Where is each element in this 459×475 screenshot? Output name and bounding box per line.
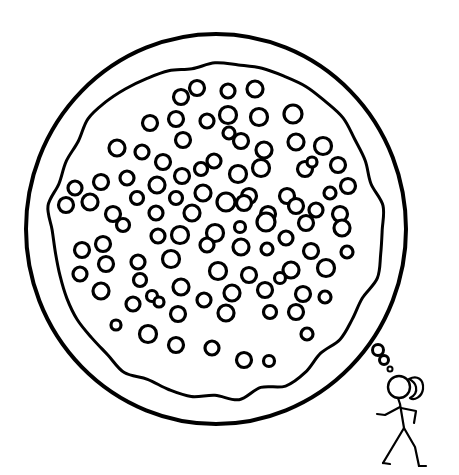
pizza-topping — [233, 239, 249, 255]
pizza-topping — [324, 187, 336, 199]
pizza-topping — [131, 192, 144, 205]
pizza-topping — [176, 133, 191, 148]
pizza-topping — [318, 260, 335, 277]
pizza-topping — [309, 203, 323, 217]
figure-foot-back — [383, 463, 390, 464]
pizza-topping — [195, 163, 208, 176]
pizza-topping — [289, 199, 304, 214]
pizza-topping — [143, 116, 158, 131]
pizza-topping — [131, 255, 145, 269]
pizza-topping — [175, 169, 190, 184]
pizza-topping — [140, 326, 157, 343]
pizza-topping — [253, 160, 270, 177]
pizza-topping — [230, 166, 247, 183]
pizza-topping — [242, 268, 257, 283]
pizza-topping — [200, 238, 214, 252]
pizza-topping — [307, 157, 317, 167]
pizza-topping — [169, 112, 184, 127]
pizza-topping — [258, 283, 273, 298]
pizza-topping — [275, 273, 286, 284]
pizza-topping — [220, 107, 237, 124]
pizza-topping — [75, 243, 90, 258]
pizza-topping — [126, 297, 140, 311]
pizza-topping — [111, 320, 121, 330]
pizza-topping — [334, 220, 350, 236]
pizza-topping — [174, 90, 189, 105]
pizza-topping — [99, 257, 114, 272]
pizza-topping — [251, 109, 268, 126]
pizza-topping — [156, 155, 171, 170]
trail-bubble-2 — [380, 356, 389, 365]
trail-bubble-3 — [388, 367, 393, 372]
pizza-topping — [120, 171, 134, 185]
pizza-topping — [93, 283, 109, 299]
pizza-topping — [218, 305, 234, 321]
pizza-topping — [59, 198, 74, 213]
pizza-topping — [289, 305, 304, 320]
pizza-topping — [221, 84, 235, 98]
pizza-topping — [264, 306, 277, 319]
pizza-topping — [197, 293, 211, 307]
pizza-topping — [171, 307, 186, 322]
pizza-topping — [315, 138, 332, 155]
pizza-topping — [341, 179, 356, 194]
pizza-topping — [264, 356, 275, 367]
pizza-topping — [341, 246, 353, 258]
pizza-topping — [195, 185, 211, 201]
pizza-topping — [207, 154, 221, 168]
pizza-topping — [173, 279, 189, 295]
illustration-canvas: Stick figure girl walking while thinking… — [0, 0, 459, 475]
pizza-topping — [319, 291, 331, 303]
pizza-topping — [170, 192, 183, 205]
figure-head — [388, 376, 410, 398]
pizza-topping — [237, 196, 252, 211]
pizza-topping — [151, 229, 165, 243]
pizza-topping — [224, 285, 240, 301]
pizza-topping — [217, 193, 235, 211]
pizza-topping — [237, 353, 252, 368]
pizza-topping — [172, 227, 189, 244]
pizza-topping — [279, 231, 293, 245]
pizza-topping — [200, 114, 214, 128]
pizza-topping — [284, 105, 302, 123]
pizza-topping — [73, 267, 87, 281]
pizza-topping — [256, 142, 272, 158]
pizza-topping — [257, 213, 275, 231]
pizza-topping — [117, 219, 130, 232]
pizza-topping — [82, 194, 98, 210]
pizza-topping — [234, 134, 249, 149]
pizza-topping — [261, 243, 273, 255]
pizza-topping — [149, 206, 163, 220]
pizza-topping — [94, 175, 109, 190]
pizza-topping — [235, 222, 246, 233]
pizza-topping — [135, 145, 149, 159]
pizza-topping — [163, 251, 180, 268]
pizza-topping — [68, 181, 82, 195]
pizza-topping — [331, 158, 346, 173]
line-drawing-svg — [0, 0, 459, 475]
pizza-topping — [205, 341, 219, 355]
pizza-topping — [299, 216, 314, 231]
pizza-topping — [210, 263, 227, 280]
pizza-topping — [247, 81, 263, 97]
pizza-topping — [134, 274, 147, 287]
pizza-topping — [169, 338, 184, 353]
pizza-topping — [190, 81, 205, 96]
pizza-topping — [154, 297, 164, 307]
trail-bubble-1 — [373, 345, 384, 356]
pizza-topping — [301, 328, 313, 340]
pizza-topping — [149, 177, 165, 193]
pizza-topping — [109, 140, 125, 156]
pizza-topping — [184, 205, 200, 221]
pizza-topping — [288, 134, 304, 150]
pizza-topping — [304, 244, 319, 259]
pizza-topping — [296, 287, 311, 302]
pizza-topping — [96, 237, 111, 252]
